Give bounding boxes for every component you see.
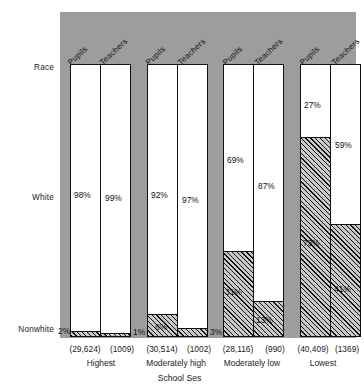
- bar-teachers-moderately-low: [253, 64, 284, 337]
- value-label-nonwhite-pupils-lowest: 73%: [303, 238, 320, 248]
- value-label-nonwhite-teachers-lowest: 41%: [334, 284, 351, 294]
- tick-count-teachers-lowest: (1369): [330, 344, 364, 354]
- value-label-nonwhite-teachers-moderately-low: 13%: [256, 315, 273, 325]
- tick-count-pupils-highest: (29,624): [62, 344, 108, 354]
- value-label-white-pupils-moderately-high: 92%: [151, 190, 168, 200]
- value-label-white-teachers-highest: 99%: [105, 193, 122, 203]
- value-label-white-pupils-highest: 98%: [74, 190, 91, 200]
- value-label-nonwhite-teachers-moderately-high: 3%: [210, 327, 222, 337]
- y-axis-label-group: Race White Nonwhite: [0, 0, 57, 386]
- y-axis-label-race: Race: [34, 63, 54, 72]
- group-label-lowest: Lowest: [290, 358, 356, 368]
- segment-nonwhite-pupils-highest: [71, 331, 100, 337]
- value-label-white-teachers-moderately-low: 87%: [258, 181, 275, 191]
- value-label-white-pupils-lowest: 27%: [304, 100, 321, 110]
- value-label-nonwhite-teachers-highest: 1%: [133, 327, 145, 337]
- segment-nonwhite-teachers-lowest: [331, 224, 360, 336]
- value-label-white-pupils-moderately-low: 69%: [227, 155, 244, 165]
- bar-pupils-moderately-high: [147, 64, 178, 337]
- value-label-nonwhite-pupils-moderately-high: 8%: [155, 322, 167, 332]
- tick-count-teachers-moderately-high: (1002): [181, 344, 217, 354]
- segment-nonwhite-teachers-moderately-high: [178, 328, 207, 336]
- segment-nonwhite-pupils-lowest: [301, 137, 330, 336]
- tick-count-pupils-moderately-low: (28,116): [215, 344, 261, 354]
- value-label-nonwhite-pupils-moderately-low: 31%: [225, 287, 242, 297]
- tick-count-teachers-moderately-low: (990): [259, 344, 291, 354]
- x-axis-title: School Ses: [0, 373, 359, 383]
- group-label-moderately-high: Moderately high: [135, 358, 217, 368]
- bar-teachers-lowest: [330, 64, 361, 337]
- segment-nonwhite-teachers-highest: [101, 333, 130, 336]
- tick-count-teachers-highest: (1009): [104, 344, 140, 354]
- value-label-white-teachers-lowest: 59%: [335, 140, 352, 150]
- y-axis-label-nonwhite: Nonwhite: [18, 325, 54, 334]
- bar-pupils-highest: [70, 64, 101, 337]
- group-label-highest: Highest: [62, 358, 140, 368]
- tick-count-pupils-moderately-high: (30,514): [139, 344, 185, 354]
- value-label-nonwhite-pupils-highest: 2%: [58, 326, 70, 336]
- y-axis-label-white: White: [32, 193, 54, 202]
- value-label-white-teachers-moderately-high: 97%: [182, 195, 199, 205]
- group-label-moderately-low: Moderately low: [212, 358, 292, 368]
